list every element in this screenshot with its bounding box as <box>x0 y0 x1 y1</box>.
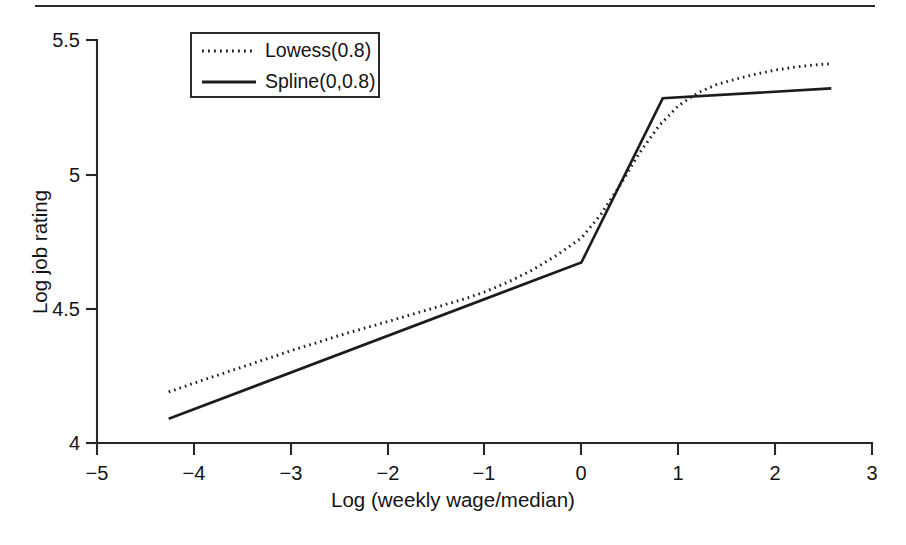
legend-solid-line-icon <box>201 75 257 89</box>
legend-dotted-line-icon <box>201 44 257 58</box>
x-tick-label--2: −2 <box>377 462 400 485</box>
x-axis-ticks <box>97 443 872 455</box>
y-tick-label-5: 5 <box>69 164 80 187</box>
y-tick-label-4: 4 <box>69 432 80 455</box>
x-tick-label--1: −1 <box>473 462 496 485</box>
series-lowess <box>169 64 832 392</box>
y-axis-ticks <box>86 40 97 443</box>
x-tick-label-0: 0 <box>575 462 586 485</box>
legend-label-lowess: Lowess(0.8) <box>265 41 371 61</box>
y-tick-label-4.5: 4.5 <box>52 298 80 321</box>
x-tick-label-1: 1 <box>672 462 683 485</box>
y-axis-title: Log job rating <box>28 190 52 314</box>
x-tick-label--3: −3 <box>280 462 303 485</box>
series-spline <box>169 88 832 418</box>
x-tick-label--5: −5 <box>86 462 109 485</box>
legend-item-spline: Spline(0,0.8) <box>192 66 378 97</box>
x-axis-title: Log (weekly wage/median) <box>331 488 575 512</box>
legend: Lowess(0.8) Spline(0,0.8) <box>190 32 380 98</box>
x-tick-label-3: 3 <box>866 462 877 485</box>
x-tick-label-2: 2 <box>769 462 780 485</box>
y-tick-label-5.5: 5.5 <box>52 29 80 52</box>
chart-figure: 5.5 5 4.5 4 −5 −4 −3 −2 −1 0 1 2 3 Log (… <box>0 0 906 545</box>
legend-label-spline: Spline(0,0.8) <box>265 72 376 92</box>
x-tick-label--4: −4 <box>183 462 206 485</box>
legend-item-lowess: Lowess(0.8) <box>192 35 378 66</box>
